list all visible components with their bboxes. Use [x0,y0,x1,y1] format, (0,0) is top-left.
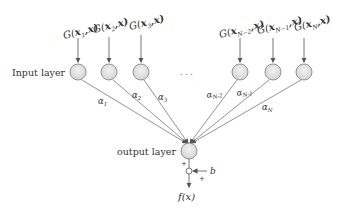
input-layer-label: Input layer [12,67,66,78]
alpha-2: α2 [132,90,142,101]
input-label-3: G(x3,x) [128,13,166,34]
input-node-n [296,64,312,80]
output-node [181,143,197,159]
input-labels: G(x1,x) G(x2,x) G(x3,x) G(xN−2,x) G(xN−1… [62,13,333,43]
input-node-3 [133,64,149,80]
input-label-2: G(x2,x) [92,16,130,37]
plus-top: + [181,160,187,168]
summation-junction [186,168,192,174]
output-layer-label: output layer [117,146,176,157]
alpha-1: α1 [98,96,107,107]
alpha-n-1: αN-1 [236,85,254,99]
bias-label: b [210,166,216,176]
input-node-n-1 [265,64,281,80]
alpha-n: αN [262,102,273,113]
plus-bias: + [199,175,205,183]
ellipsis: . . . [180,68,193,77]
rbf-network-diagram: G(x1,x) G(x2,x) G(x3,x) G(xN−2,x) G(xN−1… [0,0,340,214]
input-node-n-2 [232,64,248,80]
input-arrows [78,35,304,62]
alpha-3: α3 [158,92,168,103]
output-function-label: f(x) [177,191,195,202]
input-node-1 [70,64,86,80]
alpha-n-2: αN-2 [206,87,224,101]
input-node-2 [101,64,117,80]
